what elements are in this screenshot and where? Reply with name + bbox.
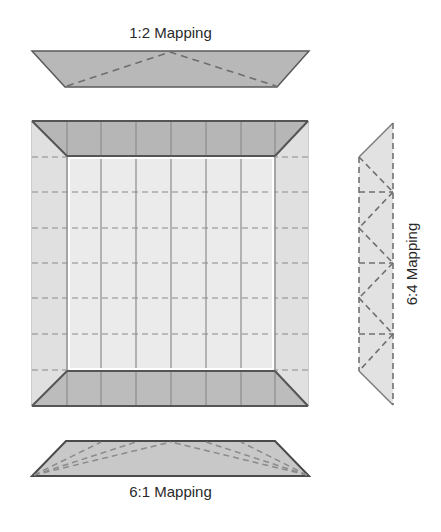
bottom-strip-6-1 — [32, 441, 309, 476]
main-square — [32, 121, 308, 406]
bottom-strip-label: 6:1 Mapping — [0, 483, 341, 500]
mapping-diagram — [0, 0, 441, 532]
top-strip-label: 1:2 Mapping — [0, 24, 341, 41]
right-strip-label: 6:4 Mapping — [403, 223, 420, 306]
right-strip-6-4 — [359, 123, 393, 405]
top-strip-1-2 — [32, 51, 309, 87]
